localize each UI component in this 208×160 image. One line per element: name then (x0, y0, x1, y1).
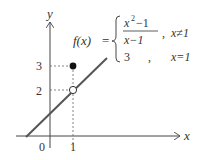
brace (112, 16, 120, 62)
case1-condition: x≠1 (170, 26, 189, 40)
open-point (69, 86, 76, 93)
y-tick-3: 3 (36, 59, 42, 73)
x-axis-label: x (183, 128, 190, 143)
equals-sign: = (102, 33, 109, 48)
case2-condition: x=1 (170, 50, 190, 64)
case2-value: 3 (124, 50, 130, 64)
function-graph: y x 0 1 3 2 f(x) = x 2 −1 x−1 , x≠1 3 , … (0, 0, 208, 160)
piecewise-formula: f(x) = x 2 −1 x−1 , x≠1 3 , x=1 (73, 14, 190, 64)
numerator-exponent: 2 (131, 14, 135, 23)
numerator-base: x (123, 16, 130, 30)
function-lhs: f(x) (73, 33, 91, 48)
case1-separator: , (162, 26, 165, 40)
filled-point (70, 63, 77, 70)
case2-separator: , (148, 50, 151, 64)
x-tick-1: 1 (70, 140, 76, 154)
numerator-rest: −1 (136, 16, 149, 30)
y-tick-2: 2 (36, 84, 42, 98)
y-axis-label: y (45, 6, 53, 21)
origin-label: 0 (39, 140, 45, 154)
denominator: x−1 (123, 33, 143, 47)
